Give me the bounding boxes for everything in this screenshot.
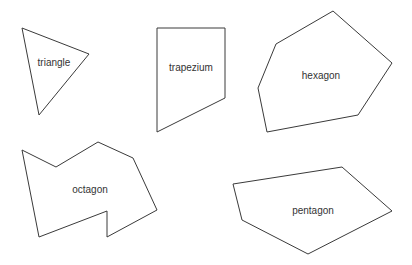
- trapezium-shape: [157, 28, 225, 132]
- trapezium-label: trapezium: [169, 62, 213, 73]
- triangle-label: triangle: [38, 57, 71, 68]
- triangle-shape: [22, 28, 89, 115]
- hexagon-label: hexagon: [302, 70, 340, 81]
- pentagon-label: pentagon: [292, 205, 334, 216]
- diagram-canvas: [0, 0, 412, 265]
- octagon-label: octagon: [72, 184, 108, 195]
